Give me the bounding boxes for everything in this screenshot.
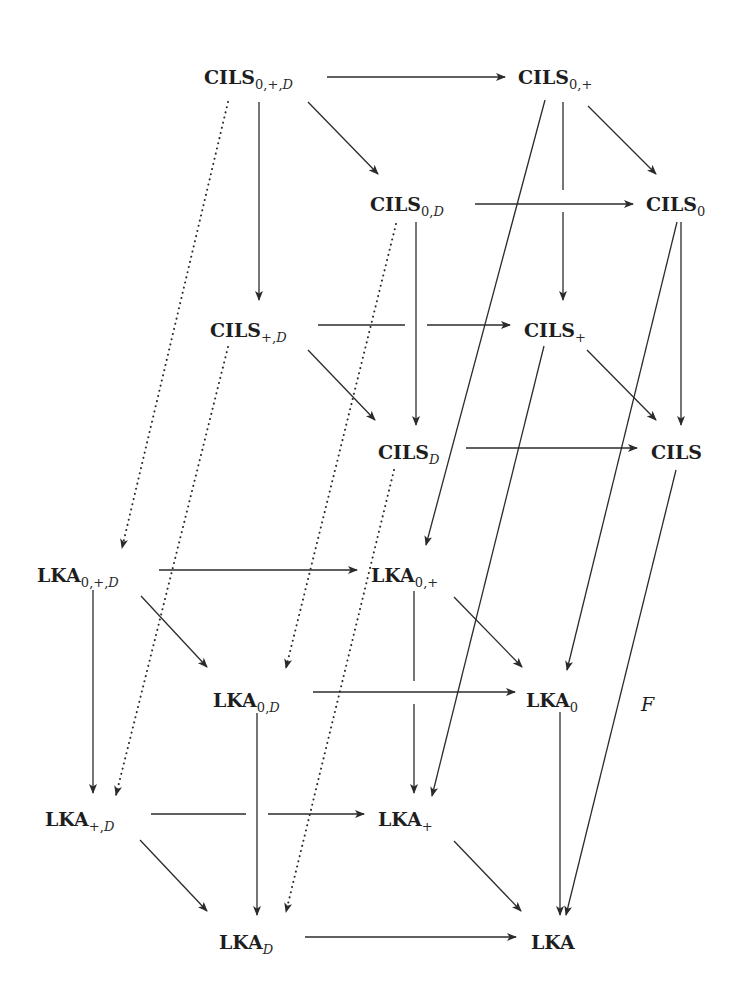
node-cils-0-: CILS0,+	[518, 66, 592, 92]
functor-label-f: F	[640, 693, 655, 715]
node-cils-d: CILS+,D	[210, 319, 287, 345]
edge-LKA_+D-to-LKA_D	[140, 840, 207, 911]
node-base-label: CILS	[646, 193, 697, 215]
edge-CILS_+-to-CILS	[587, 350, 656, 420]
edge-CILS_D-to-LKA_D	[286, 470, 394, 912]
node-lka-0-: LKA0,+	[371, 564, 438, 590]
edge-CILS_0+-to-CILS_0	[588, 106, 656, 174]
node-subscript-d: D	[103, 819, 115, 834]
node-subscript: 0,+,	[255, 77, 282, 92]
node-subscript-d: D	[282, 77, 294, 92]
node-base-label: CILS	[518, 66, 569, 88]
arrow-line	[587, 350, 656, 420]
node-cils-0: CILS0	[646, 193, 705, 219]
arrow-line	[454, 597, 522, 667]
node-cils-: CILS+	[524, 319, 586, 345]
node-lka-0d: LKA0,D	[213, 689, 280, 715]
arrow-line	[588, 106, 656, 174]
node-subscript-d: D	[433, 204, 445, 219]
node-base-label: CILS	[524, 319, 575, 341]
edge-CILS_0+D-to-CILS_0D	[308, 102, 378, 174]
node-subscript: 0,	[257, 700, 269, 715]
edge-LKA_0+-to-LKA_0	[454, 597, 522, 667]
node-subscript: +,	[261, 330, 276, 345]
node-base-label: LKA	[378, 808, 422, 830]
edge-LKA_+-to-LKA	[454, 841, 521, 911]
node-base-label: LKA	[526, 689, 570, 711]
edge-CILS_+D-to-LKA_+D	[116, 347, 228, 795]
node-base-label: CILS	[370, 193, 421, 215]
node-subscript: 0	[697, 204, 705, 219]
edge-CILS-to-LKA	[566, 470, 676, 915]
node-base-label: CILS	[378, 441, 429, 463]
commutative-diagram: CILS0,+,DCILS0,+CILS0,DCILS0CILS+,DCILS+…	[0, 0, 749, 992]
edge-CILS_+-to-LKA_+	[432, 346, 544, 796]
dotted-arrow-line	[286, 470, 394, 912]
node-subscript-d: D	[268, 700, 280, 715]
node-subscript-d: D	[428, 452, 440, 467]
node-base-label: LKA	[213, 689, 257, 711]
node-base-label: LKA	[531, 931, 575, 953]
node-lka-: LKA+	[378, 808, 433, 834]
node-base-label: LKA	[219, 931, 263, 953]
arrow-line	[308, 350, 375, 420]
node-subscript-d: D	[107, 575, 119, 590]
nodes-layer: CILS0,+,DCILS0,+CILS0,DCILS0CILS+,DCILS+…	[37, 66, 705, 957]
node-subscript: +,	[89, 819, 104, 834]
node-lka: LKA	[531, 931, 575, 953]
node-subscript: 0,+	[415, 575, 438, 590]
node-cils: CILS	[651, 441, 702, 463]
node-base-label: LKA	[371, 564, 415, 586]
node-lka-0-d: LKA0,+,D	[37, 564, 119, 590]
node-subscript: 0	[570, 700, 578, 715]
node-subscript-d: D	[262, 942, 274, 957]
arrow-line	[454, 841, 521, 911]
node-base-label: CILS	[210, 319, 261, 341]
node-subscript: +	[422, 819, 433, 834]
arrow-line	[432, 346, 544, 796]
node-lka-d: LKA+,D	[45, 808, 115, 834]
dotted-arrow-line	[116, 347, 228, 795]
arrow-line	[566, 470, 676, 915]
node-cils-d: CILSD	[378, 441, 440, 467]
node-subscript: 0,+,	[81, 575, 108, 590]
node-base-label: LKA	[45, 808, 89, 830]
node-base-label: CILS	[651, 441, 702, 463]
node-cils-0d: CILS0,D	[370, 193, 445, 219]
node-lka-0: LKA0	[526, 689, 578, 715]
node-subscript-d: D	[275, 330, 287, 345]
node-lka-d: LKAD	[219, 931, 274, 957]
node-base-label: LKA	[37, 564, 81, 586]
arrow-line	[140, 840, 207, 911]
node-subscript: 0,+	[569, 77, 592, 92]
node-base-label: CILS	[204, 66, 255, 88]
node-subscript: 0,	[421, 204, 433, 219]
node-cils-0-d: CILS0,+,D	[204, 66, 294, 92]
edge-CILS_+D-to-CILS_D	[308, 350, 375, 420]
node-subscript: +	[575, 330, 586, 345]
arrow-line	[308, 102, 378, 174]
